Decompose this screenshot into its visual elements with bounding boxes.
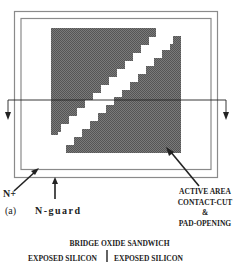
active-area-pointer xyxy=(170,151,199,186)
active-area-label: ACTIVE AREA CONTACT-CUT & PAD-OPENING xyxy=(172,187,238,229)
active-area-line-2: CONTACT-CUT xyxy=(172,198,238,209)
arrow-down-icon xyxy=(223,112,229,120)
active-area-line-3: & xyxy=(172,208,238,219)
panel-label: (a) xyxy=(5,205,16,216)
arrow-down-icon xyxy=(5,112,11,120)
bridge-oxide-label: BRIDGE OXIDE SANDWICH xyxy=(0,239,239,248)
n-plus-label: N+ xyxy=(3,188,16,199)
exposed-silicon-right-label: EXPOSED SILICON xyxy=(114,254,183,262)
n-plus-pointer xyxy=(14,171,36,191)
active-area-line-1: ACTIVE AREA xyxy=(172,187,238,198)
exposed-silicon-left-label: EXPOSED SILICON xyxy=(28,254,97,262)
n-guard-label: N-guard xyxy=(35,205,82,216)
active-area-line-4: PAD-OPENING xyxy=(172,219,238,230)
